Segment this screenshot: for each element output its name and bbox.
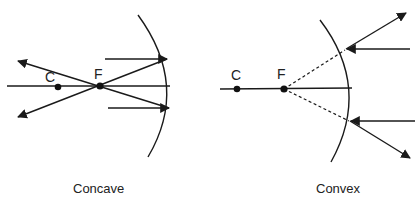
convex-mirror-arc: [320, 20, 349, 162]
concave-focal-point: [96, 82, 103, 89]
mirror-ray-diagrams: C F Concave C F Convex: [0, 0, 419, 204]
concave-center-label: C: [45, 69, 55, 85]
concave-caption: Concave: [73, 181, 124, 196]
convex-center-label: C: [231, 67, 241, 83]
convex-virtual-ray-upper: [284, 50, 345, 89]
concave-focus-label: F: [94, 66, 103, 82]
convex-diagram: C F Convex: [220, 13, 415, 196]
convex-caption: Convex: [316, 181, 361, 196]
concave-diagram: C F Concave: [7, 15, 170, 196]
convex-focal-point: [280, 85, 287, 92]
convex-focus-label: F: [277, 66, 286, 82]
convex-reflected-ray-lower: [350, 121, 410, 158]
concave-center-point: [55, 84, 62, 91]
convex-center-point: [234, 86, 241, 93]
convex-reflected-ray-upper: [346, 13, 406, 49]
convex-virtual-ray-lower: [284, 89, 349, 121]
